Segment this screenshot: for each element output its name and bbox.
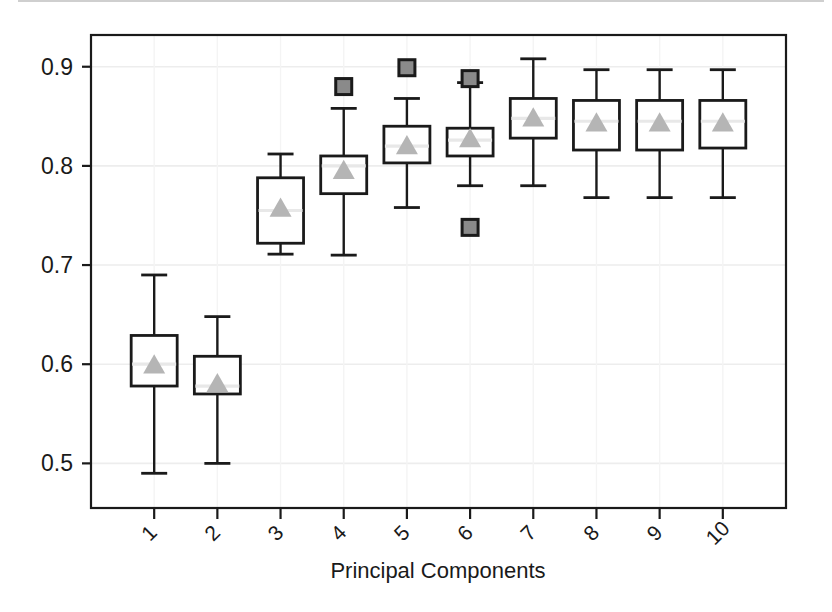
- outlier-marker-6-0: [462, 71, 478, 87]
- x-tick-label-1: 1: [137, 520, 162, 545]
- x-tick-label-9: 9: [642, 520, 667, 545]
- x-tick-label-10: 10: [701, 516, 734, 549]
- x-tick-label-7: 7: [516, 520, 541, 545]
- x-tick-label-3: 3: [263, 520, 288, 545]
- x-tick-label-2: 2: [200, 520, 225, 545]
- y-tick-label-0.6: 0.6: [41, 351, 73, 377]
- boxplot-chart: 0.50.60.70.80.9 12345678910 Principal Co…: [0, 0, 832, 612]
- boxplot-item-8: [573, 70, 619, 198]
- y-tick-label-0.9: 0.9: [41, 54, 73, 80]
- boxplot-item-2: [194, 317, 240, 464]
- x-axis-ticks-group: [154, 508, 723, 519]
- outlier-marker-4-0: [336, 79, 352, 95]
- x-tick-label-8: 8: [579, 520, 604, 545]
- y-axis-ticks-group: 0.50.60.70.80.9: [41, 54, 91, 477]
- y-tick-label-0.8: 0.8: [41, 153, 73, 179]
- x-axis-title: Principal Components: [330, 558, 545, 583]
- boxplot-item-10: [700, 70, 746, 198]
- box-series-group: [131, 59, 746, 473]
- boxplot-item-1: [131, 275, 177, 473]
- x-axis-labels-group: 12345678910: [137, 516, 734, 549]
- outlier-marker-6-1: [462, 219, 478, 235]
- y-tick-label-0.7: 0.7: [41, 252, 73, 278]
- x-tick-label-6: 6: [453, 520, 478, 545]
- scan-artifact-line: [0, 0, 832, 3]
- x-tick-label-4: 4: [326, 520, 351, 545]
- boxplot-item-9: [637, 70, 683, 198]
- boxplot-item-3: [258, 154, 304, 254]
- outlier-marker-5-0: [399, 60, 415, 76]
- y-tick-label-0.5: 0.5: [41, 450, 73, 476]
- x-tick-label-5: 5: [389, 520, 414, 545]
- figure-canvas: 0.50.60.70.80.9 12345678910 Principal Co…: [0, 0, 832, 612]
